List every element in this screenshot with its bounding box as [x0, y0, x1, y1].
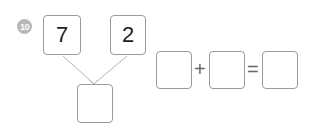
- top-right-number-box: 2: [110, 15, 146, 55]
- equation-first-box[interactable]: [156, 51, 192, 89]
- plus-sign: +: [194, 59, 206, 79]
- equation-second-box[interactable]: [209, 51, 245, 89]
- equals-sign: =: [247, 59, 259, 79]
- bottom-answer-box[interactable]: [77, 84, 113, 123]
- top-left-number-box: 7: [43, 15, 81, 55]
- equation-result-box[interactable]: [262, 51, 298, 89]
